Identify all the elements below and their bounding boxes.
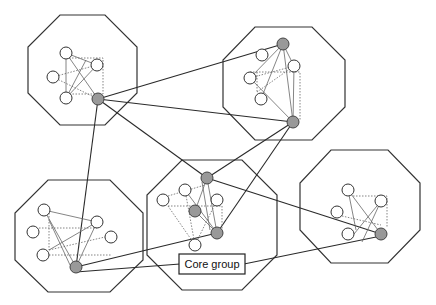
- member-node: [91, 59, 103, 71]
- core-node: [70, 261, 82, 273]
- member-node: [331, 206, 343, 218]
- network-diagram: Core group: [0, 0, 436, 305]
- core-group-label-text: Core group: [184, 258, 239, 270]
- member-node: [256, 49, 268, 61]
- core-link: [98, 99, 207, 178]
- core-link: [217, 122, 293, 233]
- core-node: [277, 38, 289, 50]
- member-node: [105, 231, 117, 243]
- member-node: [157, 194, 169, 206]
- member-node: [211, 194, 223, 206]
- core-link: [98, 44, 283, 99]
- core-node: [92, 93, 104, 105]
- member-node: [255, 93, 267, 105]
- core-link: [207, 122, 293, 178]
- core-group-label: Core group: [179, 254, 245, 274]
- member-node: [342, 228, 354, 240]
- member-node: [375, 195, 387, 207]
- member-node: [342, 184, 354, 196]
- member-node: [60, 47, 72, 59]
- cluster-1-boundary: [28, 15, 137, 125]
- member-node: [244, 72, 256, 84]
- member-node: [189, 239, 201, 251]
- member-node: [38, 204, 50, 216]
- member-node: [288, 60, 300, 72]
- core-node: [201, 172, 213, 184]
- core-links: [76, 44, 381, 272]
- core-link: [76, 264, 180, 272]
- member-node: [27, 226, 39, 238]
- core-node: [211, 227, 223, 239]
- member-node: [60, 92, 72, 104]
- member-node: [47, 71, 59, 83]
- member-node: [37, 249, 49, 261]
- core-link: [76, 99, 98, 267]
- core-link: [244, 236, 381, 264]
- core-node: [375, 228, 387, 240]
- member-node: [91, 216, 103, 228]
- member-node: [179, 184, 191, 196]
- core-node: [287, 116, 299, 128]
- core-node: [189, 205, 201, 217]
